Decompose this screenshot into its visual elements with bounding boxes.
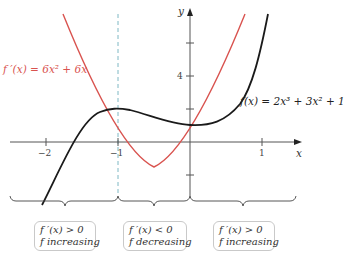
interval-3-behavior: f increasing (219, 236, 269, 248)
interval-2-derivative-sign: f ′(x) < 0 (129, 224, 181, 236)
brace-interval-2 (118, 196, 190, 206)
f-curve (42, 14, 268, 205)
f-prime-label: f ′(x) = 6x² + 6x (3, 64, 87, 75)
x-axis-arrow-icon (294, 139, 302, 145)
interval-1-behavior: f increasing (40, 236, 90, 248)
x-tick-label-minus-1: −1 (110, 149, 123, 158)
interval-1-derivative-sign: f ′(x) > 0 (40, 224, 90, 236)
y-tick-label-4: 4 (177, 72, 183, 81)
x-tick-label-minus-2: −2 (38, 149, 51, 158)
y-axis-arrow-icon (187, 8, 193, 16)
interval-box-2: f ′(x) < 0 f decreasing (123, 221, 187, 251)
interval-2-behavior: f decreasing (129, 236, 181, 248)
brace-interval-1 (10, 196, 118, 206)
x-tick-label-1: 1 (259, 149, 265, 158)
x-axis-label: x (296, 148, 302, 159)
f-prime-curve (63, 14, 245, 167)
interval-box-1: f ′(x) > 0 f increasing (34, 221, 96, 251)
y-axis-label: y (178, 6, 184, 17)
f-label: f(x) = 2x³ + 3x² + 1 (240, 96, 345, 107)
interval-box-3: f ′(x) > 0 f increasing (213, 221, 275, 251)
interval-3-derivative-sign: f ′(x) > 0 (219, 224, 269, 236)
brace-interval-3 (190, 196, 296, 206)
